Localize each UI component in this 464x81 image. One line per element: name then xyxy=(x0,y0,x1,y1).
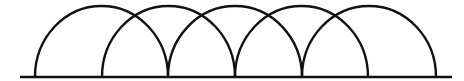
overlapping-arcs-diagram xyxy=(0,0,464,81)
arc-5 xyxy=(302,6,436,77)
arcs-group xyxy=(35,6,436,77)
